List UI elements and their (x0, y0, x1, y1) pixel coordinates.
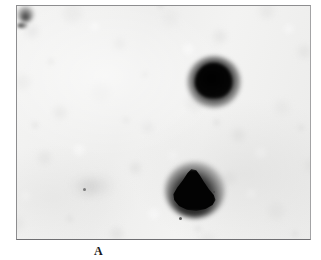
figure-caption: A (0, 241, 321, 260)
lower-spot-neck (17, 6, 34, 22)
plate-shading-overlay (17, 6, 310, 239)
artifact-speck-left (83, 188, 86, 191)
artifact-speck-bottom (179, 217, 182, 220)
artifact-speck-mid (213, 191, 215, 193)
upper-spot (195, 63, 232, 98)
figure-root: A (0, 0, 321, 260)
panel-label: A (94, 245, 103, 257)
autoradiograph-plate (16, 5, 311, 240)
lower-spot-tail (17, 22, 28, 29)
faint-smudge (69, 174, 115, 198)
